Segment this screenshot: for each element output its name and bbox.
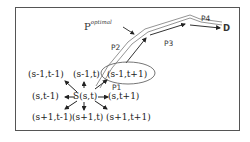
- node-bottom-right: (s+1,t+1): [106, 113, 151, 122]
- optimal-path-label: Poptimal: [84, 20, 112, 32]
- optimal-path-superscript: optimal: [91, 19, 112, 25]
- optimal-pointer-arrow: [123, 27, 134, 34]
- node-center: S(s,t): [73, 92, 97, 101]
- path-label-p1: P1: [112, 84, 121, 92]
- node-left: (s,t-1): [32, 92, 59, 101]
- node-top: (s-1,t): [73, 70, 100, 79]
- optimal-path-base: P: [84, 21, 91, 32]
- node-bottom-left: (s+1,t-1): [32, 113, 72, 122]
- destination-label: D: [223, 24, 230, 33]
- path-label-p2: P2: [111, 44, 120, 52]
- path-label-p4: P4: [201, 15, 210, 23]
- node-bottom: (s+1,t): [72, 113, 103, 122]
- node-top-left: (s-1,t-1): [28, 70, 64, 79]
- node-top-right: (s-1,t+1): [107, 70, 147, 79]
- node-right: (s,t+1): [108, 92, 139, 101]
- path-label-p3: P3: [164, 40, 173, 48]
- p4-arrow: [190, 25, 220, 28]
